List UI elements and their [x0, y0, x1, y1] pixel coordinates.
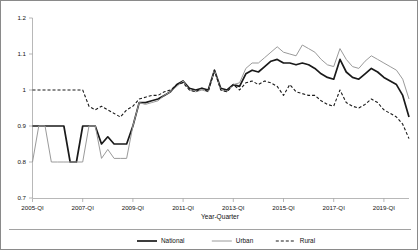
x-tick-label: 2011-QI	[172, 204, 194, 211]
line-chart: 0.70.80.911.11.2 2005-QI2007-QI2009-QI20…	[1, 1, 418, 250]
y-axis-tick-group: 0.70.80.911.11.2	[17, 14, 32, 201]
x-axis-tick-group: 2005-QI2007-QI2009-QI2011-QI2013-QI2015-…	[21, 199, 395, 212]
legend-label-rural[interactable]: Rural	[300, 237, 315, 244]
x-tick-label: 2005-QI	[21, 204, 44, 211]
legend-label-national[interactable]: National	[161, 237, 184, 244]
series-group	[33, 45, 410, 162]
chart-legend: NationalUrbanRural	[137, 237, 315, 244]
x-tick-label: 2015-QI	[272, 204, 295, 211]
x-tick-label: 2019-QI	[373, 204, 396, 211]
y-tick-label: 1.2	[17, 14, 26, 21]
x-tick-label: 2007-QI	[72, 204, 95, 211]
x-tick-label: 2009-QI	[122, 204, 145, 211]
series-line-urban	[33, 45, 410, 162]
x-tick-label: 2013-QI	[222, 204, 245, 211]
y-tick-label: 0.9	[17, 122, 26, 129]
y-tick-label: 1.1	[17, 50, 26, 57]
legend-label-urban[interactable]: Urban	[236, 237, 254, 244]
series-line-national	[33, 59, 410, 162]
y-tick-label: 0.8	[17, 158, 26, 165]
chart-figure: 0.70.80.911.11.2 2005-QI2007-QI2009-QI20…	[0, 0, 418, 250]
x-axis-title: Year-Quarter	[201, 213, 240, 221]
y-tick-label: 0.7	[17, 194, 26, 201]
x-tick-label: 2017-QI	[323, 204, 346, 211]
y-tick-label: 1	[23, 86, 27, 93]
